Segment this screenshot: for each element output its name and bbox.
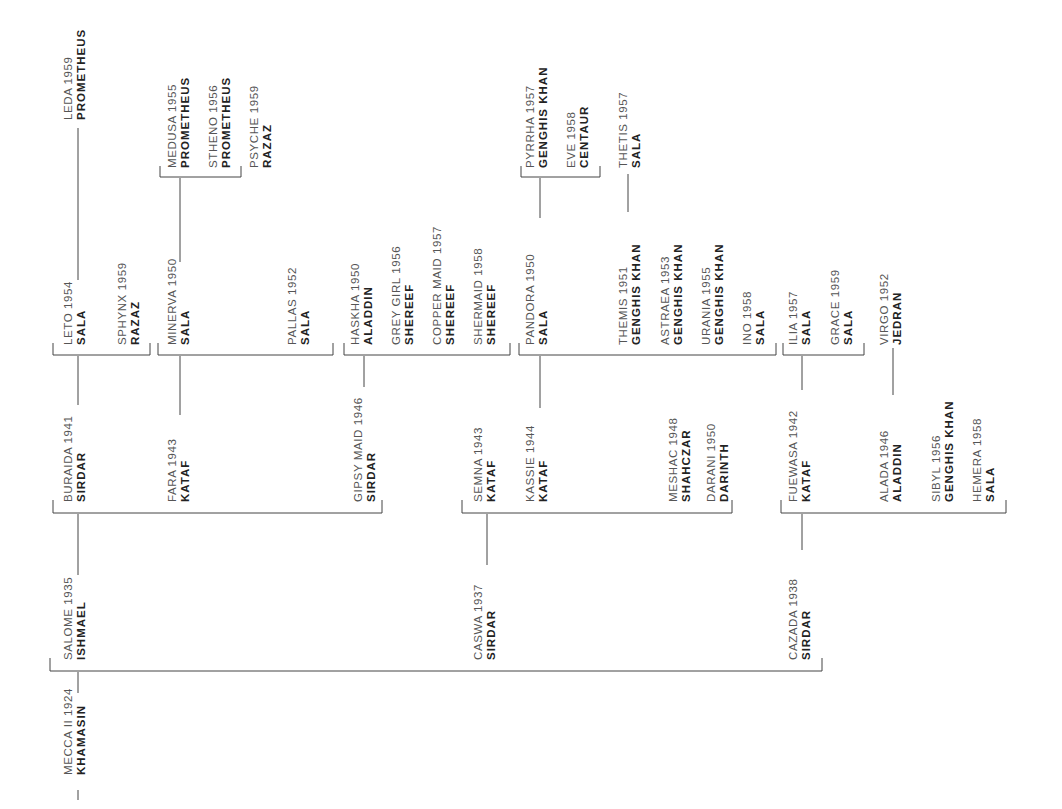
horse-name: MESHAC 1948 [667, 417, 680, 502]
sire-name: SALA [984, 418, 997, 502]
horse-name: CAZADA 1938 [787, 579, 800, 660]
node-label: PALLAS 1952SALA [286, 267, 312, 345]
node-label: MINERVA 1950SALA [166, 258, 192, 345]
horse-name: PALLAS 1952 [286, 267, 299, 345]
horse-name: FARA 1943 [166, 438, 179, 502]
sire-name: KATAF [485, 427, 498, 502]
node-label: URANIA 1955GENGHIS KHAN [700, 244, 726, 345]
horse-name: STHENO 1956 [207, 77, 220, 168]
node-label: KASSIE 1944KATAF [524, 425, 550, 502]
sire-name: ALADDIN [891, 430, 904, 502]
node-label: FUEWASA 1942KATAF [787, 410, 813, 502]
sire-name: PROMETHEUS [220, 77, 233, 168]
node-label: DARANI 1950DARINTH [705, 423, 731, 502]
sire-name: SIRDAR [365, 397, 378, 502]
horse-name: PYRRHA 1957 [524, 67, 537, 168]
horse-name: SPHYNX 1959 [116, 262, 129, 345]
sire-name: GENGHIS KHAN [943, 401, 956, 502]
node-label: SEMNA 1943KATAF [472, 427, 498, 502]
node-label: INO 1958SALA [741, 291, 767, 345]
horse-name: EVE 1958 [565, 106, 578, 168]
sire-name: SALA [75, 281, 88, 345]
node-label: MEDUSA 1955PROMETHEUS [166, 77, 192, 168]
horse-name: PSYCHE 1959 [248, 85, 261, 168]
horse-name: SIBYL 1956 [930, 401, 943, 502]
node-label: EVE 1958CENTAUR [565, 106, 591, 168]
node-label: ALADA 1946ALADDIN [878, 430, 904, 502]
horse-name: ALADA 1946 [878, 430, 891, 502]
sire-name: ISHMAEL [75, 577, 88, 660]
node-label: BURAIDA 1941SIRDAR [62, 416, 88, 502]
sire-name: JEDRAN [891, 273, 904, 345]
node-label: GRACE 1959SALA [829, 269, 855, 345]
horse-name: MEDUSA 1955 [166, 77, 179, 168]
sire-name: KATAF [179, 438, 192, 502]
horse-name: GIPSY MAID 1946 [352, 397, 365, 502]
sire-name: SHEREEF [444, 226, 457, 345]
horse-name: KASSIE 1944 [524, 425, 537, 502]
horse-name: THEMIS 1951 [617, 244, 630, 345]
node-label: THEMIS 1951GENGHIS KHAN [617, 244, 643, 345]
node-label: PANDORA 1950SALA [524, 254, 550, 345]
sire-name: RAZAZ [261, 85, 274, 168]
horse-name: PANDORA 1950 [524, 254, 537, 345]
horse-name: URANIA 1955 [700, 244, 713, 345]
sire-name: PROMETHEUS [75, 29, 88, 120]
horse-name: THETIS 1957 [617, 92, 630, 168]
horse-name: HEMERA 1958 [971, 418, 984, 502]
node-label: MESHAC 1948SHAHCZAR [667, 417, 693, 502]
sire-name: DARINTH [718, 423, 731, 502]
node-label: FARA 1943KATAF [166, 438, 192, 502]
node-label: PYRRHA 1957GENGHIS KHAN [524, 67, 550, 168]
node-label: THETIS 1957SALA [617, 92, 643, 168]
horse-name: SALOME 1935 [62, 577, 75, 660]
sire-name: GENGHIS KHAN [713, 244, 726, 345]
sire-name: CENTAUR [578, 106, 591, 168]
horse-name: SHERMAID 1958 [472, 248, 485, 345]
node-label: STHENO 1956PROMETHEUS [207, 77, 233, 168]
node-label: SHERMAID 1958SHEREEF [472, 248, 498, 345]
horse-name: GREY GIRL 1956 [390, 246, 403, 345]
sire-name: SIRDAR [485, 584, 498, 660]
sire-name: KHAMASIN [75, 688, 88, 775]
sire-name: KATAF [800, 410, 813, 502]
horse-name: FUEWASA 1942 [787, 410, 800, 502]
horse-name: SEMNA 1943 [472, 427, 485, 502]
node-label: CAZADA 1938SIRDAR [787, 579, 813, 660]
horse-name: LETO 1954 [62, 281, 75, 345]
horse-name: MINERVA 1950 [166, 258, 179, 345]
node-label: SALOME 1935ISHMAEL [62, 577, 88, 660]
sire-name: RAZAZ [129, 262, 142, 345]
horse-name: VIRGO 1952 [878, 273, 891, 345]
sire-name: SHAHCZAR [680, 417, 693, 502]
sire-name: SALA [179, 258, 192, 345]
horse-name: DARANI 1950 [705, 423, 718, 502]
node-label: SIBYL 1956GENGHIS KHAN [930, 401, 956, 502]
horse-name: COPPER MAID 1957 [431, 226, 444, 345]
horse-name: LEDA 1959 [62, 29, 75, 120]
sire-name: GENGHIS KHAN [537, 67, 550, 168]
horse-name: ASTRAEA 1953 [659, 244, 672, 345]
horse-name: MECCA II 1924 [62, 688, 75, 775]
sire-name: SALA [299, 267, 312, 345]
node-label: GREY GIRL 1956SHEREEF [390, 246, 416, 345]
sire-name: SIRDAR [800, 579, 813, 660]
horse-name: ILIA 1957 [787, 291, 800, 345]
sire-name: KATAF [537, 425, 550, 502]
sire-name: GENGHIS KHAN [672, 244, 685, 345]
horse-name: GRACE 1959 [829, 269, 842, 345]
horse-name: INO 1958 [741, 291, 754, 345]
sire-name: PROMETHEUS [179, 77, 192, 168]
node-label: HASKHA 1950ALADDIN [349, 263, 375, 345]
node-label: COPPER MAID 1957SHEREEF [431, 226, 457, 345]
sire-name: SHEREEF [485, 248, 498, 345]
horse-name: CASWA 1937 [472, 584, 485, 660]
sire-name: SALA [842, 269, 855, 345]
sire-name: SALA [630, 92, 643, 168]
node-label: PSYCHE 1959RAZAZ [248, 85, 274, 168]
sire-name: SALA [537, 254, 550, 345]
node-label: LETO 1954SALA [62, 281, 88, 345]
node-label: ILIA 1957SALA [787, 291, 813, 345]
node-label: MECCA II 1924KHAMASIN [62, 688, 88, 775]
sire-name: SALA [800, 291, 813, 345]
